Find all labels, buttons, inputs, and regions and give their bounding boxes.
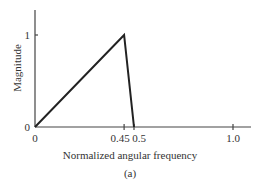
figure-caption: (a)	[124, 167, 137, 180]
y-tick-label: 1	[25, 29, 31, 41]
data-series	[35, 35, 134, 127]
magnitude-response-line	[35, 35, 134, 127]
chart-figure: 00.450.51.0 01 Magnitude Normalized angu…	[0, 0, 265, 188]
chart-canvas: 00.450.51.0 01 Magnitude Normalized angu…	[0, 0, 265, 188]
x-tick-label: 0.5	[132, 132, 146, 144]
y-axis-ticks: 01	[25, 29, 39, 133]
x-tick-label: 0	[32, 132, 38, 144]
y-tick-label: 0	[25, 121, 31, 133]
x-tick-label: 1.0	[226, 132, 240, 144]
x-axis-label: Normalized angular frequency	[63, 149, 198, 161]
y-axis-label: Magnitude	[11, 44, 23, 92]
x-tick-label: 0.45	[110, 132, 130, 144]
